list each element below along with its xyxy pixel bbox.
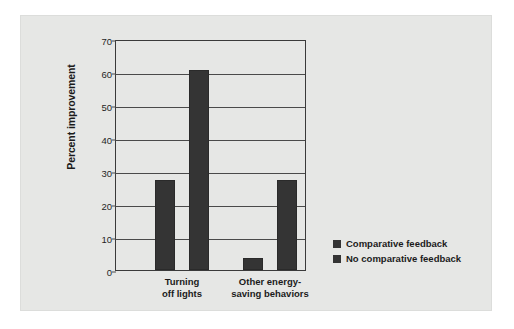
y-axis-title: Percent improvement (65, 52, 77, 182)
y-tick-label: 40 (101, 135, 112, 146)
legend-swatch-icon (333, 255, 341, 263)
legend-item[interactable]: Comparative feedback (333, 238, 483, 249)
y-tick-label: 20 (101, 201, 112, 212)
y-tick-mark (112, 140, 116, 141)
y-tick-mark (112, 206, 116, 207)
x-category-label-line: Other energy- (231, 276, 309, 288)
x-category-label-line: saving behaviors (231, 288, 309, 300)
legend-swatch-icon (333, 240, 341, 248)
y-tick-label: 50 (101, 102, 112, 113)
legend-label: Comparative feedback (346, 238, 447, 249)
gridline (116, 74, 305, 75)
chart-legend: Comparative feedbackNo comparative feedb… (333, 238, 483, 268)
bar (277, 180, 297, 270)
y-tick-label: 70 (101, 36, 112, 47)
plot-area: 706050403020100 Turningoff lightsOther e… (115, 40, 306, 271)
y-tick-mark (112, 41, 116, 42)
x-category-label-line: off lights (162, 288, 202, 300)
y-tick-mark (112, 173, 116, 174)
bar (243, 258, 263, 270)
figure-panel: Percent improvement 706050403020100 Turn… (20, 15, 492, 311)
y-tick-label: 0 (107, 267, 112, 278)
y-tick-mark (112, 74, 116, 75)
y-tick-mark (112, 272, 116, 273)
gridline (116, 173, 305, 174)
gridline (116, 140, 305, 141)
x-category-label-line: Turning (162, 276, 202, 288)
bar (155, 180, 175, 270)
legend-item[interactable]: No comparative feedback (333, 253, 483, 264)
y-tick-label: 30 (101, 168, 112, 179)
y-tick-mark (112, 107, 116, 108)
y-tick-label: 60 (101, 69, 112, 80)
gridline (116, 107, 305, 108)
y-tick-label: 10 (101, 234, 112, 245)
bar (189, 70, 209, 270)
x-category-label: Other energy-saving behaviors (231, 276, 309, 300)
y-tick-mark (112, 239, 116, 240)
legend-label: No comparative feedback (346, 253, 461, 264)
x-category-label: Turningoff lights (162, 276, 202, 300)
